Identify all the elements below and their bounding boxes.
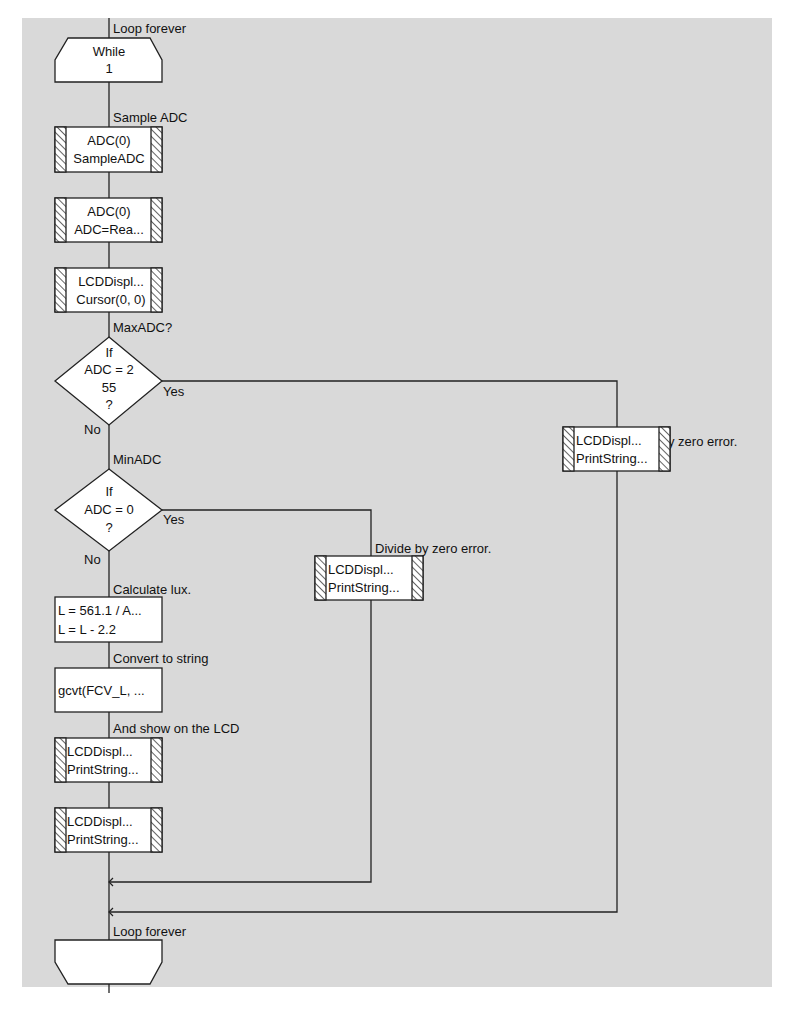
step1-comment: Sample ADC [113, 110, 187, 125]
decision1-line4: ? [105, 397, 112, 412]
step1-line1: ADC(0) [87, 133, 130, 148]
decision1-yes-label: Yes [163, 384, 185, 399]
flowchart: Loop forever While 1 Sample ADC ADC(0) S… [0, 0, 790, 1009]
loop-start-line1: While [93, 44, 126, 59]
yes-branch-1-component[interactable]: Divide by zero error. LCDDispl... PrintS… [563, 427, 737, 471]
decision1-line3: 55 [102, 380, 116, 395]
decision2-no-label: No [84, 552, 101, 567]
lcd-print-component-1[interactable]: And show on the LCD LCDDispl... PrintStr… [55, 721, 239, 782]
decision1-comment: MaxADC? [113, 320, 172, 335]
component-adc-read[interactable]: ADC(0) ADC=Rea... [55, 198, 162, 242]
decision-max-adc[interactable]: MaxADC? If ADC = 2 55 ? Yes No [55, 320, 185, 437]
yes-branch2-line1: LCDDispl... [328, 562, 394, 577]
step3-line2: Cursor(0, 0) [76, 292, 145, 307]
decision1-yes-line [109, 381, 617, 912]
convert-line1: gcvt(FCV_L, ... [58, 683, 145, 698]
show1-line2: PrintString... [67, 762, 139, 777]
decision2-yes-label: Yes [163, 512, 185, 527]
decision2-line2: ADC = 0 [84, 502, 134, 517]
convert-block[interactable]: Convert to string gcvt(FCV_L, ... [55, 651, 208, 712]
yes-branch1-line1: LCDDispl... [576, 433, 642, 448]
loop-end-block[interactable]: Loop forever [55, 924, 187, 984]
show1-line1: LCDDispl... [67, 744, 133, 759]
step2-line2: ADC=Rea... [74, 222, 144, 237]
calc-line1: L = 561.1 / A... [58, 603, 142, 618]
yes-branch2-comment: Divide by zero error. [375, 541, 491, 556]
yes-branch1-line2: PrintString... [576, 451, 648, 466]
convert-comment: Convert to string [113, 651, 208, 666]
show2-line2: PrintString... [67, 832, 139, 847]
decision2-line1: If [105, 484, 113, 499]
loop-start-comment: Loop forever [113, 21, 187, 36]
component-adc-sample[interactable]: Sample ADC ADC(0) SampleADC [55, 110, 187, 172]
decision2-comment: MinADC [113, 452, 161, 467]
loop-end-comment: Loop forever [113, 924, 187, 939]
decision2-line3: ? [105, 520, 112, 535]
calculation-block[interactable]: Calculate lux. L = 561.1 / A... L = L - … [55, 582, 191, 642]
calc-line2: L = L - 2.2 [58, 622, 116, 637]
step3-line1: LCDDispl... [78, 274, 144, 289]
lcd-print-component-2[interactable]: LCDDispl... PrintString... [55, 808, 162, 852]
loop-start-block[interactable]: Loop forever While 1 [55, 21, 187, 82]
decision1-no-label: No [84, 422, 101, 437]
yes-branch2-line2: PrintString... [328, 580, 400, 595]
calc-comment: Calculate lux. [113, 582, 191, 597]
step2-line1: ADC(0) [87, 204, 130, 219]
loop-start-line2: 1 [105, 61, 112, 76]
component-lcd-cursor[interactable]: LCDDispl... Cursor(0, 0) [55, 268, 162, 312]
step1-line2: SampleADC [73, 151, 145, 166]
show1-comment: And show on the LCD [113, 721, 239, 736]
decision1-line1: If [105, 345, 113, 360]
yes-branch-2-component[interactable]: Divide by zero error. LCDDispl... PrintS… [315, 541, 491, 600]
decision1-line2: ADC = 2 [84, 362, 134, 377]
show2-line1: LCDDispl... [67, 814, 133, 829]
